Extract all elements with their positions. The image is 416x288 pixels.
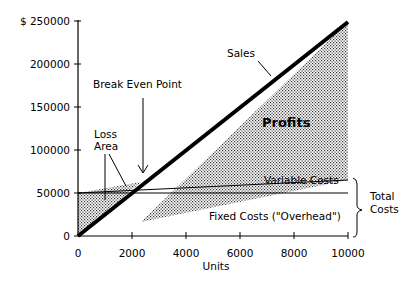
sales-pointer [258, 61, 271, 76]
loss-area-annotation: Loss [94, 128, 117, 140]
total-costs-label: Total [369, 190, 395, 202]
y-tick-label: 50000 [37, 187, 70, 199]
x-tick-label: 2000 [119, 247, 146, 259]
break-even-chart: 0 50000 100000 150000 200000 $ 250000 0 … [0, 0, 416, 288]
x-tick-label: 4000 [173, 247, 200, 259]
x-tick-label: 6000 [227, 247, 254, 259]
sales-annotation: Sales [227, 47, 255, 59]
total-costs-label: Costs [370, 203, 399, 215]
x-axis-label: Units [203, 260, 230, 272]
y-tick-label: 100000 [30, 144, 70, 156]
profits-annotation: Profits [262, 115, 311, 130]
total-costs-brace [353, 178, 362, 237]
x-tick-label: 8000 [281, 247, 308, 259]
x-tick-label: 10000 [331, 247, 364, 259]
y-tick-label: 0 [63, 230, 70, 242]
loss-area-annotation: Area [94, 140, 118, 152]
break-even-annotation: Break Even Point [93, 78, 182, 90]
x-tick-label: 0 [75, 247, 82, 259]
y-tick-label: 150000 [30, 101, 70, 113]
y-tick-label: $ 250000 [20, 15, 70, 27]
variable-costs-label: Variable Costs [264, 174, 339, 186]
loss-pointer [109, 154, 126, 186]
y-tick-label: 200000 [30, 58, 70, 70]
fixed-costs-label: Fixed Costs ("Overhead") [209, 210, 341, 222]
